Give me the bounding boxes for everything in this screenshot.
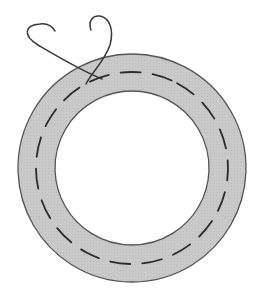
figure-canvas [0,0,256,301]
stitched-ring-diagram [0,0,256,301]
fabric-ring [18,54,246,282]
